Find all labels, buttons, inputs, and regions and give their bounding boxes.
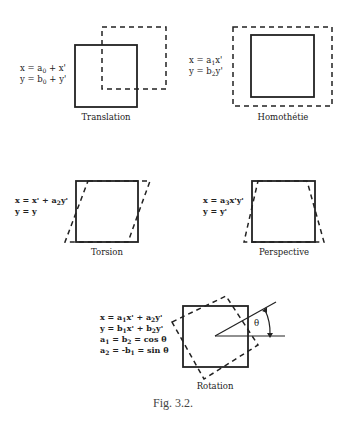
translation-eq-x: x = a0 + x' — [20, 63, 66, 74]
rotated-axis-line — [215, 302, 276, 336]
perspective-trapezoid — [244, 181, 324, 242]
figure-caption: Fig. 3.2. — [153, 396, 193, 410]
perspective-eq-x: x = a3x'y' — [203, 195, 244, 206]
panel-perspective: x = a3x'y' y = y' Perspective — [202, 181, 324, 257]
homothetie-eq-x: x = a1x' — [189, 55, 222, 66]
rotation-eq-2: y = b1x' + b2y' — [99, 323, 163, 334]
rotation-eq-4: a2 = -b1 = sin θ — [100, 345, 169, 356]
translated-square — [102, 27, 166, 89]
panel-torsion: x = x' + a2y' y = y Torsion — [14, 181, 150, 257]
translation-eq-y: y = b0 + y' — [19, 74, 66, 85]
scaled-square — [233, 27, 332, 106]
perspective-label: Perspective — [259, 247, 309, 257]
panel-homothetie: x = a1x' y = b2y' Homothétie — [188, 27, 332, 122]
rotation-eq-3: a1 = b2 = cos θ — [100, 334, 167, 345]
homothetie-label: Homothétie — [258, 112, 309, 122]
angle-arc — [265, 310, 270, 334]
theta-symbol: θ — [254, 318, 259, 328]
rotation-label: Rotation — [197, 381, 234, 391]
panel-translation: x = a0 + x' y = b0 + y' Translation — [19, 27, 166, 122]
original-square — [251, 35, 314, 97]
original-square — [252, 181, 315, 242]
torsion-eq-y: y = y — [14, 206, 37, 216]
perspective-eq-y: y = y' — [202, 206, 227, 216]
torsion-label: Torsion — [91, 247, 123, 257]
homothetie-eq-y: y = b2y' — [188, 66, 223, 77]
rotation-eq-1: x = a1x' + a2y' — [100, 312, 162, 323]
translation-label: Translation — [81, 112, 131, 122]
torsion-eq-x: x = x' + a2y' — [15, 195, 68, 206]
panel-rotation: x = a1x' + a2y' y = b1x' + b2y' a1 = b2 … — [99, 296, 285, 391]
figure-canvas: x = a0 + x' y = b0 + y' Translation x = … — [0, 0, 347, 442]
original-square — [75, 45, 137, 107]
